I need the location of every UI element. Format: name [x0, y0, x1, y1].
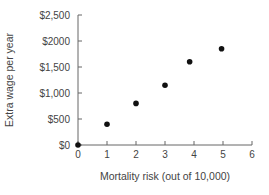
x-tick-label: 2 — [133, 149, 139, 160]
x-axis-label: Mortality risk (out of 10,000) — [100, 170, 230, 182]
y-tick-label: $2,500 — [39, 10, 70, 21]
y-tick-label: $1,000 — [39, 88, 70, 99]
data-point — [187, 59, 193, 65]
data-points — [75, 46, 224, 148]
data-point — [104, 121, 110, 127]
y-tick-label: $1,500 — [39, 62, 70, 73]
x-tick-label: 4 — [191, 149, 197, 160]
y-tick-label: $0 — [59, 140, 71, 151]
x-axis-ticks: 0123456 — [75, 141, 255, 160]
data-point — [75, 142, 81, 148]
scatter-chart: $0$500$1,000$1,500$2000$2,500 0123456 Ex… — [0, 0, 269, 195]
y-axis-ticks: $0$500$1,000$1,500$2000$2,500 — [39, 10, 82, 151]
data-point — [133, 101, 139, 107]
data-point — [219, 46, 225, 52]
x-tick-label: 1 — [104, 149, 110, 160]
data-point — [162, 82, 168, 88]
x-tick-label: 3 — [162, 149, 168, 160]
y-tick-label: $500 — [48, 114, 71, 125]
y-tick-label: $2000 — [42, 36, 70, 47]
x-tick-label: 6 — [249, 149, 255, 160]
x-tick-label: 0 — [75, 149, 81, 160]
y-axis-label: Extra wage per year — [3, 33, 15, 127]
x-tick-label: 5 — [220, 149, 226, 160]
